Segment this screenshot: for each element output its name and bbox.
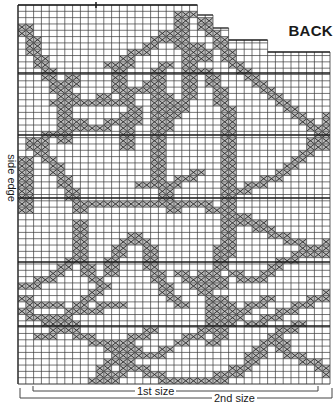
second-size-label: 2nd size bbox=[212, 392, 257, 403]
first-size-label: 1st size bbox=[135, 385, 176, 397]
chart-title: BACK bbox=[288, 22, 333, 39]
side-edge-label: side edge bbox=[6, 148, 18, 208]
knitting-chart-grid bbox=[0, 0, 335, 403]
